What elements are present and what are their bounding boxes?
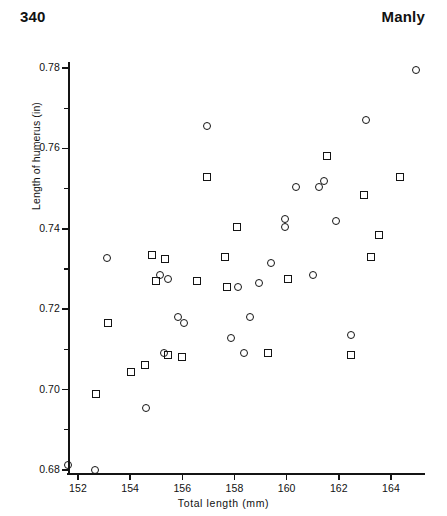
y-tick-mark: [62, 389, 69, 391]
data-point-circle: [292, 183, 300, 191]
data-point-square: [193, 277, 201, 285]
data-point-circle: [246, 313, 254, 321]
data-point-square: [203, 173, 211, 181]
data-point-square: [178, 353, 186, 361]
data-point-circle: [103, 254, 111, 262]
data-points-layer: [0, 0, 447, 516]
y-tick-mark-minor: [64, 268, 69, 269]
data-point-square: [127, 368, 135, 376]
x-tick-mark: [286, 473, 288, 480]
figure-page: 340 Manly Length of humerus (in) Total l…: [0, 0, 447, 516]
y-tick-mark: [62, 228, 69, 230]
data-point-circle: [281, 223, 289, 231]
data-point-circle: [234, 283, 242, 291]
x-tick-label: 160: [267, 482, 307, 494]
x-tick-mark: [338, 473, 340, 480]
data-point-circle: [180, 319, 188, 327]
x-tick-label: 152: [58, 482, 98, 494]
data-point-circle: [227, 334, 235, 342]
data-point-square: [223, 283, 231, 291]
data-point-square: [264, 349, 272, 357]
data-point-square: [141, 361, 149, 369]
data-point-square: [284, 275, 292, 283]
data-point-square: [375, 231, 383, 239]
x-tick-mark: [129, 473, 131, 480]
y-tick-mark: [62, 67, 69, 69]
data-point-square: [396, 173, 404, 181]
x-tick-label: 158: [215, 482, 255, 494]
data-point-circle: [267, 259, 275, 267]
y-tick-mark-minor: [64, 429, 69, 430]
data-point-circle: [332, 217, 340, 225]
y-tick-mark-minor: [64, 188, 69, 189]
x-tick-label: 164: [371, 482, 411, 494]
data-point-square: [92, 390, 100, 398]
data-point-square: [152, 277, 160, 285]
data-point-circle: [255, 279, 263, 287]
data-point-circle: [142, 404, 150, 412]
data-point-square: [221, 253, 229, 261]
data-point-circle: [320, 177, 328, 185]
data-point-circle: [309, 271, 317, 279]
scatter-plot-figure: Length of humerus (in) Total length (mm)…: [0, 0, 447, 516]
y-tick-mark: [62, 469, 69, 471]
data-point-circle: [203, 122, 211, 130]
data-point-square: [164, 351, 172, 359]
data-point-circle: [281, 215, 289, 223]
x-tick-mark: [390, 473, 392, 480]
data-point-square: [233, 223, 241, 231]
data-point-square: [148, 251, 156, 259]
data-point-circle: [362, 116, 370, 124]
data-point-circle: [64, 461, 72, 469]
data-point-circle: [91, 466, 99, 474]
data-point-circle: [347, 331, 355, 339]
data-point-circle: [164, 275, 172, 283]
x-tick-label: 154: [110, 482, 150, 494]
y-tick-mark-minor: [64, 108, 69, 109]
x-tick-label: 162: [319, 482, 359, 494]
data-point-circle: [412, 66, 420, 74]
data-point-square: [323, 152, 331, 160]
data-point-square: [367, 253, 375, 261]
x-tick-label: 156: [162, 482, 202, 494]
data-point-square: [104, 319, 112, 327]
x-tick-mark: [77, 473, 79, 480]
x-tick-mark: [234, 473, 236, 480]
data-point-square: [360, 191, 368, 199]
y-tick-mark: [62, 148, 69, 150]
y-tick-mark-minor: [64, 349, 69, 350]
y-tick-mark: [62, 308, 69, 310]
data-point-circle: [240, 349, 248, 357]
x-tick-mark: [182, 473, 184, 480]
data-point-square: [161, 255, 169, 263]
data-point-square: [347, 351, 355, 359]
